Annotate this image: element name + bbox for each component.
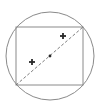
inscribed-rectangle-diagram: [0, 0, 100, 108]
plus-marker-icon: [60, 33, 66, 39]
center-point: [49, 55, 52, 58]
diagram-canvas: [0, 0, 100, 108]
plus-marker-icon: [29, 59, 35, 65]
plus-markers: [29, 33, 66, 65]
